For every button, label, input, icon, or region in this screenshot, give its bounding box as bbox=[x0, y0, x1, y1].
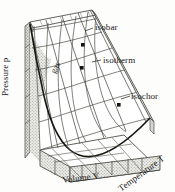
isobar-label: isobar bbox=[95, 23, 118, 32]
pressure-axis-label: Pressure p bbox=[1, 58, 10, 96]
pressure-wall bbox=[25, 22, 30, 158]
isochor-label: isochor bbox=[131, 92, 158, 101]
isochor-marker bbox=[117, 103, 121, 107]
pvt-surface-figure: isobar isotherm isochor gas Pressure p V… bbox=[0, 0, 175, 192]
isobar-marker bbox=[81, 43, 85, 47]
isotherm-marker bbox=[80, 66, 84, 70]
isotherm-label: isotherm bbox=[103, 56, 135, 65]
